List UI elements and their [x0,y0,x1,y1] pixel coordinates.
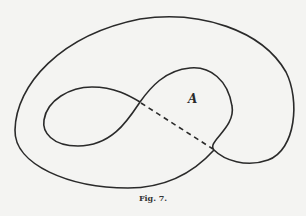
figure: A Fig. 7. [0,0,306,216]
figure-caption: Fig. 7. [0,193,306,203]
dashed-connector [141,103,213,149]
region-label-a: A [188,92,197,106]
curve-diagram [0,0,306,216]
closed-curve [15,17,294,188]
